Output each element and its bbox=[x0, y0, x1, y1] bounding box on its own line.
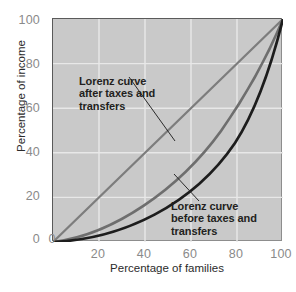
x-axis-tick-label-60: 60 bbox=[173, 247, 207, 261]
x-axis-tick-label-20: 20 bbox=[81, 247, 115, 261]
x-axis-tick-label-80: 80 bbox=[219, 247, 253, 261]
annotation-after-line-2: after taxes and bbox=[79, 87, 155, 99]
x-axis-tick-label-40: 40 bbox=[127, 247, 161, 261]
annotation-lorenz-after-taxes: Lorenz curve after taxes and transfers bbox=[79, 75, 155, 112]
annotation-lorenz-before-taxes: Lorenz curve before taxes and transfers bbox=[171, 200, 257, 237]
x-axis-tick-label-0: 0 bbox=[35, 232, 69, 246]
annotation-after-line-3: transfers bbox=[79, 100, 155, 112]
plot-area: Lorenz curve after taxes and transfers L… bbox=[52, 18, 282, 241]
annotation-after-line-1: Lorenz curve bbox=[79, 75, 155, 87]
lorenz-curve-chart: 100 80 60 40 20 0 Percentage of income bbox=[0, 0, 296, 292]
y-axis-title: Percentage of income bbox=[15, 31, 27, 161]
x-axis-title: Percentage of families bbox=[52, 262, 282, 274]
y-axis-tick-label-100: 100 bbox=[10, 13, 40, 27]
annotation-before-line-2: before taxes and bbox=[171, 212, 257, 224]
y-axis-tick-label-20: 20 bbox=[10, 189, 40, 203]
annotation-before-line-1: Lorenz curve bbox=[171, 200, 257, 212]
annotation-before-line-3: transfers bbox=[171, 225, 257, 237]
x-axis-tick-label-100: 100 bbox=[264, 247, 296, 261]
